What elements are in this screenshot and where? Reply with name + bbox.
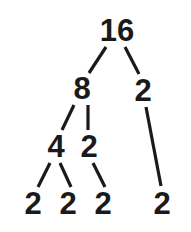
tree-node-2-right-branch: 2 (134, 75, 151, 106)
tree-node-8: 8 (73, 73, 90, 104)
tree-node-root-16: 16 (100, 15, 134, 46)
tree-node-2-middle-branch: 2 (80, 131, 97, 162)
tree-edge-2-2-mid (93, 163, 105, 187)
factor-tree-figure: 16 8 2 4 2 2 2 2 2 (0, 0, 191, 232)
tree-edge-4-2-right (60, 163, 71, 187)
tree-edge-2-2-long (146, 107, 161, 186)
tree-edge-16-8 (89, 47, 106, 73)
tree-leaf-2-first: 2 (24, 188, 41, 219)
tree-edge-4-2-left (38, 163, 50, 187)
tree-edge-8-4 (62, 105, 74, 130)
tree-node-4: 4 (47, 131, 64, 162)
tree-edge-16-2 (125, 47, 139, 74)
tree-leaf-2-third: 2 (94, 188, 111, 219)
tree-leaf-2-second: 2 (59, 188, 76, 219)
tree-leaf-2-fourth: 2 (153, 188, 170, 219)
